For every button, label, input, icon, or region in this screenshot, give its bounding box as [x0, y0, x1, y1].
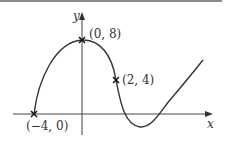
point-label-2-4: (2, 4)	[122, 73, 154, 87]
y-axis-arrow-icon	[79, 12, 85, 20]
point-label-neg4-0: (−4, 0)	[26, 119, 68, 133]
function-graph: y x (−4, 0) (0, 8) (2, 4)	[0, 0, 228, 143]
point-label-0-8: (0, 8)	[89, 27, 121, 41]
x-axis-label: x	[207, 117, 214, 131]
x-axis	[13, 111, 213, 117]
y-axis-label: y	[72, 9, 80, 23]
y-axis	[79, 12, 85, 135]
